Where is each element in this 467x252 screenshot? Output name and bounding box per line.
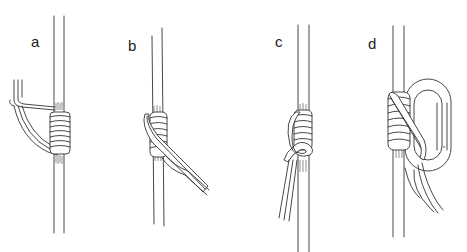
panel-c-drawing bbox=[279, 25, 313, 252]
panel-a-drawing bbox=[10, 16, 71, 233]
panel-d-drawing bbox=[388, 26, 451, 237]
knot-diagram bbox=[0, 0, 467, 252]
panel-b-drawing bbox=[144, 28, 209, 226]
